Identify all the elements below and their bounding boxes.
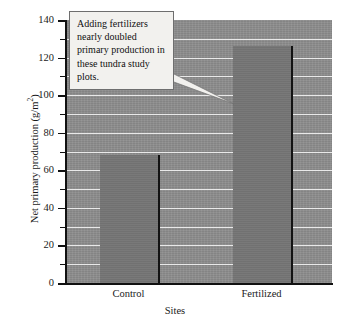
y-tick-major <box>58 20 66 22</box>
x-axis-title: Sites <box>0 305 350 316</box>
callout-annotation-box: Adding fertilizers nearly doubled primar… <box>69 11 174 90</box>
y-tick-minor <box>60 76 66 77</box>
y-tick-label: 0 <box>14 278 54 288</box>
y-tick-minor <box>60 114 66 115</box>
y-tick-minor <box>60 264 66 265</box>
bar-chart-figure: 020406080100120140 Net primary productio… <box>0 0 350 324</box>
y-tick-label: 140 <box>14 15 54 25</box>
x-category-label-fertilized: Fertilized <box>207 288 317 299</box>
y-axis-title: Net primary production (g/m2) <box>26 74 40 244</box>
y-axis-title-tail: ) <box>29 94 40 98</box>
y-tick-major <box>58 58 66 60</box>
y-tick-major <box>58 133 66 135</box>
bar-fertilized <box>233 46 293 283</box>
y-tick-minor <box>60 39 66 40</box>
y-tick-major <box>58 283 66 285</box>
x-axis-line <box>65 283 333 285</box>
y-tick-minor <box>60 189 66 190</box>
y-tick-major <box>58 170 66 172</box>
y-tick-label: 120 <box>14 53 54 63</box>
y-tick-minor <box>60 152 66 153</box>
y-tick-minor <box>60 227 66 228</box>
y-tick-major <box>58 95 66 97</box>
y-axis-title-exponent: 2 <box>26 98 35 102</box>
y-axis-title-text: Net primary production (g/m <box>29 102 40 224</box>
bar-control <box>100 155 160 283</box>
bar-texture <box>233 46 291 283</box>
y-tick-major <box>58 208 66 210</box>
bar-texture <box>100 155 158 283</box>
y-tick-major <box>58 245 66 247</box>
x-category-label-control: Control <box>74 288 184 299</box>
